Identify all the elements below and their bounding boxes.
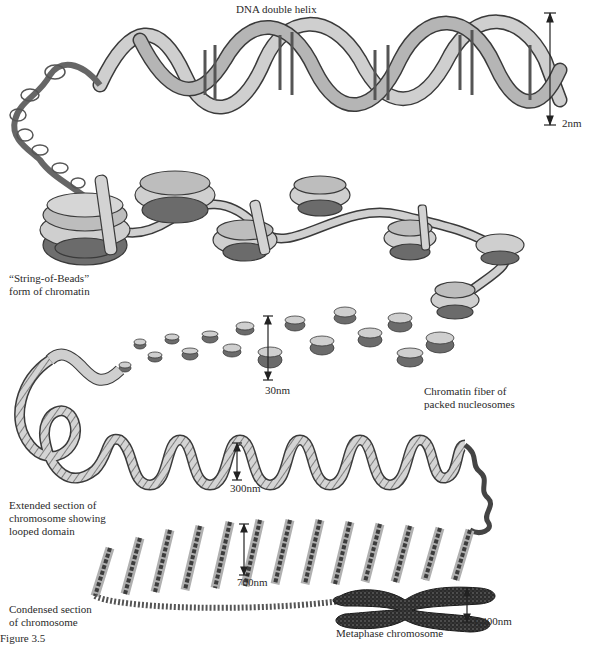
scale-label-30nm: 30nm — [265, 384, 290, 396]
label-string-of-beads-1: “String-of-Beads” — [9, 272, 89, 285]
metaphase-chromosome — [333, 587, 495, 632]
label-extended-2: chromosome showing — [9, 512, 106, 525]
label-chromatin-fiber-2: packed nucleosomes — [424, 398, 515, 411]
scale-label-300nm: 300nm — [230, 482, 261, 494]
string-of-beads — [40, 171, 524, 319]
label-dna-double-helix: DNA double helix — [236, 3, 317, 16]
label-string-of-beads-2: form of chromatin — [9, 285, 90, 298]
dna-double-helix — [10, 22, 560, 200]
scale-label-2nm: 2nm — [562, 117, 582, 129]
figure-caption: Figure 3.5 — [0, 632, 45, 645]
label-extended-3: looped domain — [9, 525, 75, 538]
scale-label-1400nm: 1,400nm — [473, 615, 512, 627]
label-condensed-2: of chromosome — [9, 616, 78, 629]
label-extended-1: Extended section of — [9, 499, 96, 512]
label-metaphase-chromosome: Metaphase chromosome — [336, 627, 443, 640]
label-condensed-1: Condensed section — [9, 603, 92, 616]
label-chromatin-fiber-1: Chromatin fiber of — [424, 385, 506, 398]
scale-label-700nm: 700nm — [237, 576, 268, 588]
scale-bar-700nm — [239, 524, 249, 575]
chromatin-fiber — [50, 307, 454, 380]
